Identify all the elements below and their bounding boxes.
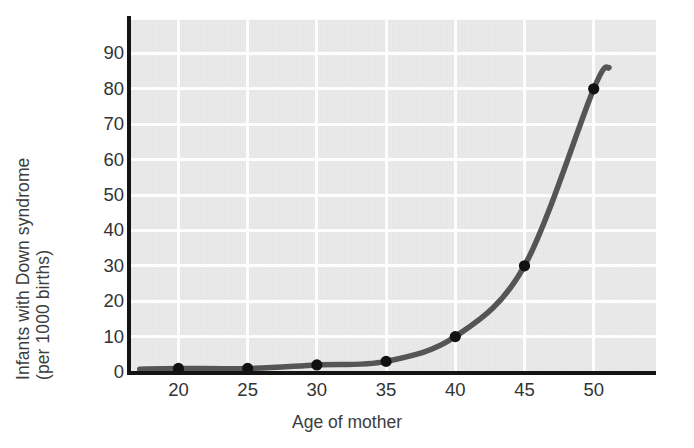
down-syndrome-incidence-curve — [140, 67, 609, 369]
y-axis-label-line-1: Infants with Down syndrome — [13, 158, 34, 380]
x-tick-50: 50 — [564, 381, 624, 400]
data-point-35-3 — [380, 356, 391, 367]
y-tick-50: 50 — [80, 186, 124, 205]
data-point-markers — [173, 83, 599, 372]
x-axis-label: Age of mother — [0, 412, 694, 433]
x-tick-40: 40 — [425, 381, 485, 400]
y-tick-40: 40 — [80, 221, 124, 240]
y-tick-30: 30 — [80, 257, 124, 276]
data-point-50-80 — [588, 83, 599, 94]
data-curve-svg — [130, 18, 656, 372]
y-tick-60: 60 — [80, 151, 124, 170]
y-axis-label: Infants with Down syndrome (per 1000 bir… — [8, 20, 58, 380]
plot-area — [130, 18, 656, 372]
y-tick-20: 20 — [80, 292, 124, 311]
data-point-45-30 — [519, 260, 530, 271]
x-tick-20: 20 — [148, 381, 208, 400]
y-axis-line — [127, 16, 131, 374]
y-tick-70: 70 — [80, 115, 124, 134]
x-tick-30: 30 — [287, 381, 347, 400]
y-axis-tick-labels: 0102030405060708090 — [62, 0, 124, 448]
x-tick-25: 25 — [218, 381, 278, 400]
y-axis-label-line-2: (per 1000 births) — [33, 250, 54, 380]
y-tick-10: 10 — [80, 328, 124, 347]
x-tick-45: 45 — [495, 381, 555, 400]
data-point-40-10 — [450, 331, 461, 342]
y-tick-80: 80 — [80, 80, 124, 99]
x-axis-line — [127, 371, 656, 375]
data-point-30-2 — [311, 359, 322, 370]
y-tick-0: 0 — [80, 363, 124, 382]
y-tick-90: 90 — [80, 44, 124, 63]
chart-figure: Infants with Down syndrome (per 1000 bir… — [0, 0, 694, 448]
x-tick-35: 35 — [356, 381, 416, 400]
